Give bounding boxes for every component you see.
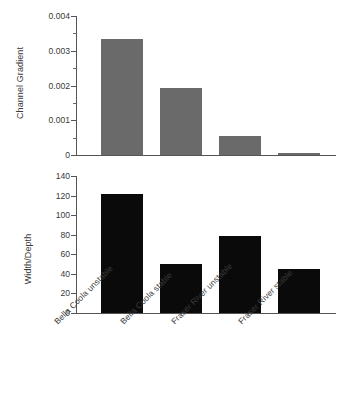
- y-tick-label: 0.003: [26, 46, 70, 56]
- y-tick-label: 0.002: [26, 81, 70, 91]
- y-tick-label: 40: [26, 269, 70, 279]
- bar-bella-coola-unstable-widthdepth: [101, 194, 143, 313]
- plot-area-top: [76, 16, 336, 155]
- y-tick-label: 80: [26, 230, 70, 240]
- y-tick-label: 0.004: [26, 11, 70, 21]
- x-axis-line-top: [76, 155, 336, 156]
- y-tick-label: 0.001: [26, 115, 70, 125]
- y-tick-label: 20: [26, 288, 70, 298]
- bar-fraser-river-unstable-gradient: [219, 136, 261, 155]
- y-tick-label: 60: [26, 249, 70, 259]
- bar-bella-coola-stable-gradient: [160, 88, 202, 155]
- chart-panel-channel-gradient: Channel Gradient 0.004 0.003 0.002 0.001…: [0, 0, 351, 170]
- figure-root: Channel Gradient 0.004 0.003 0.002 0.001…: [0, 0, 351, 404]
- y-axis-label-top: Channel Gradient: [15, 33, 25, 133]
- y-tick-label: 120: [26, 191, 70, 201]
- bar-fraser-river-stable-gradient: [278, 153, 320, 155]
- x-axis-line-bottom: [76, 313, 336, 314]
- y-tick-label: 100: [26, 210, 70, 220]
- y-tick-label: 140: [26, 171, 70, 181]
- bar-bella-coola-unstable-gradient: [101, 39, 143, 155]
- chart-panel-width-depth: Width/Depth 140 120 100 80 60 40 20 0 Be…: [0, 170, 351, 404]
- y-tick-label: 0: [26, 150, 70, 160]
